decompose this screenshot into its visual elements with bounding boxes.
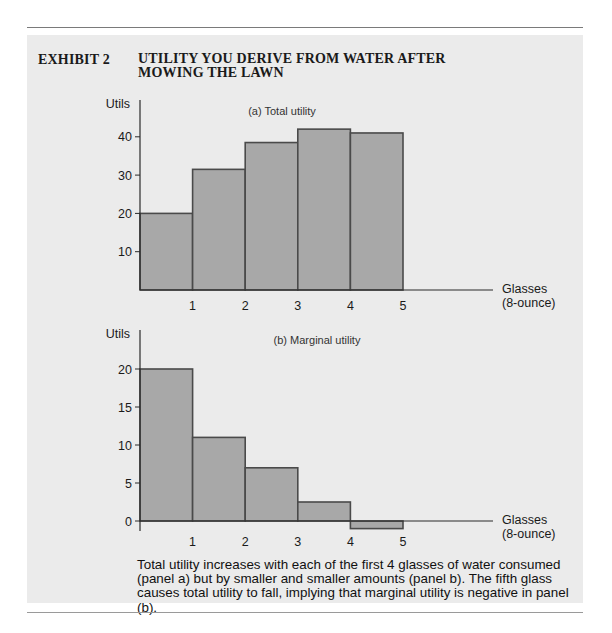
- x-axis-label: Glasses: [502, 513, 547, 527]
- marginal-utility-chart: 0510152012345Utils(b) Marginal utilityGl…: [0, 0, 612, 633]
- x-tick-label: 4: [347, 535, 354, 549]
- panel-title: (b) Marginal utility: [274, 334, 361, 346]
- x-tick-label: 2: [242, 535, 249, 549]
- y-tick-label: 0: [125, 515, 132, 529]
- y-axis-label: Utils: [106, 327, 130, 341]
- x-tick-label: 5: [400, 535, 407, 549]
- y-tick-label: 15: [118, 401, 132, 415]
- y-tick-label: 10: [118, 439, 132, 453]
- y-tick-label: 20: [118, 363, 132, 377]
- bar-glass-3: [245, 468, 298, 521]
- bar-glass-4: [298, 502, 351, 521]
- exhibit-caption: Total utility increases with each of the…: [137, 558, 582, 615]
- bottom-rule: [27, 612, 583, 613]
- x-tick-label: 1: [189, 535, 196, 549]
- bar-glass-2: [193, 437, 246, 521]
- bar-glass-1: [140, 369, 193, 521]
- bar-glass-5: [350, 521, 403, 529]
- x-tick-label: 3: [294, 535, 301, 549]
- x-axis-unit-label: (8-ounce): [502, 527, 556, 541]
- y-tick-label: 5: [125, 477, 132, 491]
